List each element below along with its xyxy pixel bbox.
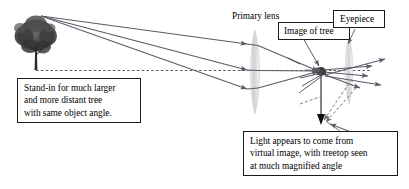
callout-standin-tree: Stand-in for much larger and more distan… [17,78,141,123]
label-eyepiece: Eyepiece [333,10,385,28]
image-of-tree-pointer [303,38,319,66]
virtual-callout-pointer [327,122,340,131]
primary-lens [251,30,260,114]
ray-diagram-figure: Primary lens Image of tree Eyepiece Stan… [0,0,409,189]
label-primary-lens: Primary lens [232,11,279,22]
callout-virtual-image: Light appears to come from virtual image… [243,131,398,176]
eyepiece-lens [345,36,353,104]
tree [14,16,57,71]
eyepiece-output-rays [323,59,385,88]
